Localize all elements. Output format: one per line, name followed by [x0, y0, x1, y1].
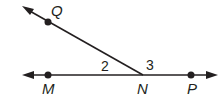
- label-m: M: [42, 80, 55, 97]
- arrowhead-q-icon: [22, 6, 34, 15]
- point-m: [45, 72, 52, 79]
- label-p: P: [187, 80, 197, 97]
- arrowhead-p-icon: [206, 71, 218, 79]
- point-q: [45, 19, 52, 26]
- arrowhead-m-icon: [22, 71, 34, 79]
- ray-nq: [28, 10, 143, 75]
- label-n: N: [137, 80, 148, 97]
- angle-diagram: Q M N P 2 3: [0, 0, 223, 110]
- point-p: [188, 72, 195, 79]
- label-angle-2: 2: [101, 58, 109, 74]
- label-q: Q: [51, 2, 63, 19]
- label-angle-3: 3: [146, 57, 154, 73]
